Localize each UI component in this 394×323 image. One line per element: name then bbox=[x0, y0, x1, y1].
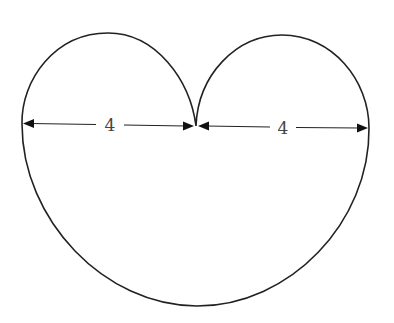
dimension-line-right-b bbox=[296, 128, 360, 129]
heart-curve-diagram: 4 4 bbox=[0, 0, 394, 323]
dimension-label-left: 4 bbox=[105, 115, 116, 135]
dimension-left: 4 bbox=[23, 115, 194, 135]
dimension-line-left-a bbox=[30, 124, 96, 125]
dimension-line-left-b bbox=[124, 125, 186, 126]
arrowhead-left-icon bbox=[23, 119, 34, 128]
dimension-right: 4 bbox=[198, 118, 368, 138]
dimension-line-right-a bbox=[206, 126, 270, 127]
arrowhead-cusp-right-icon bbox=[198, 122, 209, 131]
arrowhead-cusp-left-icon bbox=[183, 122, 194, 131]
heart-outline bbox=[22, 33, 369, 306]
arrowhead-right-icon bbox=[357, 124, 368, 133]
dimension-label-right: 4 bbox=[278, 118, 289, 138]
